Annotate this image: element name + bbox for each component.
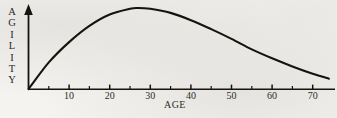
x-axis-title: AGE bbox=[164, 99, 186, 110]
x-axis-tick-label: 70 bbox=[308, 90, 318, 101]
x-axis-tick-label: 10 bbox=[64, 90, 74, 101]
agility-curve bbox=[29, 8, 329, 89]
x-axis-tick-label: 60 bbox=[267, 90, 277, 101]
x-axis-tick-label: 30 bbox=[145, 90, 155, 101]
x-axis-tick-label: 20 bbox=[105, 90, 115, 101]
x-axis-tick-label: 40 bbox=[186, 90, 196, 101]
y-axis-label: A G I L I T Y bbox=[4, 7, 20, 87]
y-axis-label-letter: Y bbox=[8, 75, 16, 86]
y-axis-arrow-icon bbox=[24, 4, 33, 15]
agility-vs-age-figure: A G I L I T Y 10203040506070 AGE bbox=[0, 0, 337, 118]
y-axis-label-letter: L bbox=[9, 41, 15, 52]
x-axis-tick-label: 50 bbox=[227, 90, 237, 101]
